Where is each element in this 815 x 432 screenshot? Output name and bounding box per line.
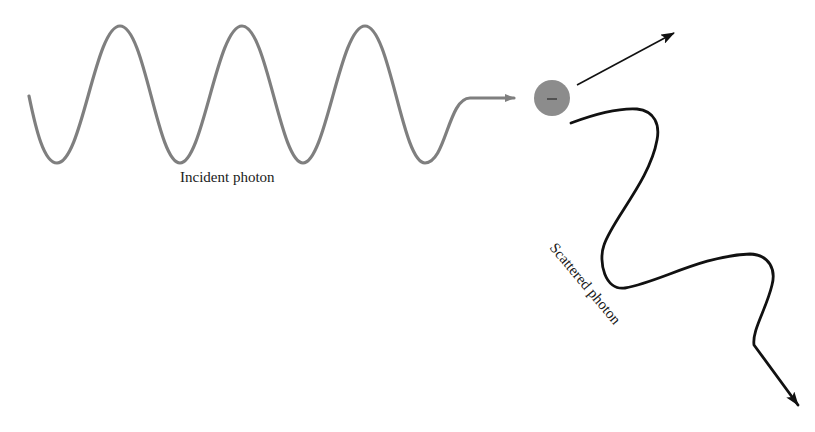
scattered-photon-wave [571,109,798,405]
incident-photon-label: Incident photon [180,169,275,185]
compton-scattering-diagram: Incident photon Scattered photon [0,0,815,432]
incident-photon-wave [29,26,514,163]
recoil-electron-arrow [577,33,674,85]
electron [534,80,570,116]
